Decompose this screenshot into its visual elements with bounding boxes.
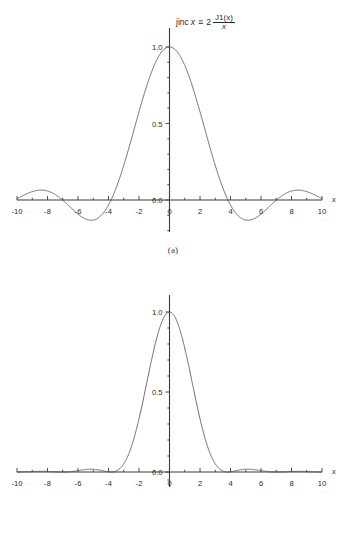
x-axis-tick-label: 10 (318, 207, 326, 216)
y-axis-tick-label: 0.0 (152, 468, 163, 477)
y-axis-tick-label: 0.0 (152, 196, 163, 205)
y-axis-tick-label: 0.5 (152, 388, 163, 397)
panel-a-title-var: x (191, 18, 195, 27)
x-axis-tick-label: 8 (289, 479, 293, 488)
panel-a-caption: (a) (0, 245, 346, 255)
x-axis-tick-label: 2 (198, 207, 202, 216)
jinc-squared-plot-svg: -10-8-6-4-20246810x0.00.51.0 (0, 271, 346, 542)
x-axis-tick-label: 4 (228, 479, 232, 488)
y-axis-tick-label: 1.0 (152, 308, 163, 317)
x-axis-tick-label: 10 (318, 479, 326, 488)
panel-a-title-denominator: x (220, 23, 228, 31)
x-axis-tick-label: 6 (259, 479, 263, 488)
figure-panel-a: -10-8-6-4-20246810x0.00.51.0 jinc x ≡ 2 … (0, 0, 346, 271)
x-axis-tick-label: 8 (289, 207, 293, 216)
x-axis-tick-label: 0 (167, 207, 171, 216)
y-axis-tick-label: 0.5 (152, 120, 163, 129)
x-axis-tick-label: 2 (198, 479, 202, 488)
x-axis-tick-label: -8 (44, 479, 51, 488)
y-axis-tick-label: 1.0 (152, 43, 163, 52)
panel-a-title: jinc x ≡ 2 J1(x) x (176, 14, 235, 31)
x-axis-tick-label: -6 (75, 479, 82, 488)
x-axis-name: x (331, 466, 336, 476)
panel-a-title-relation: ≡ (197, 18, 204, 27)
panel-a-title-fraction: J1(x) x (213, 14, 235, 31)
x-axis-tick-label: -4 (105, 479, 112, 488)
figure-panel-b: -10-8-6-4-20246810x0.00.51.0 jinc2 x (b) (0, 271, 346, 542)
x-axis-tick-label: -8 (44, 207, 51, 216)
x-axis-tick-label: -2 (136, 479, 143, 488)
x-axis-tick-label: -2 (136, 207, 143, 216)
x-axis-tick-label: -10 (12, 479, 23, 488)
x-axis-name: x (331, 194, 336, 204)
x-axis-tick-label: -10 (12, 207, 23, 216)
panel-a-title-lead: jinc (176, 18, 189, 27)
jinc-plot-svg: -10-8-6-4-20246810x0.00.51.0 (0, 0, 346, 271)
panel-a-title-coefficient: 2 (206, 18, 211, 27)
